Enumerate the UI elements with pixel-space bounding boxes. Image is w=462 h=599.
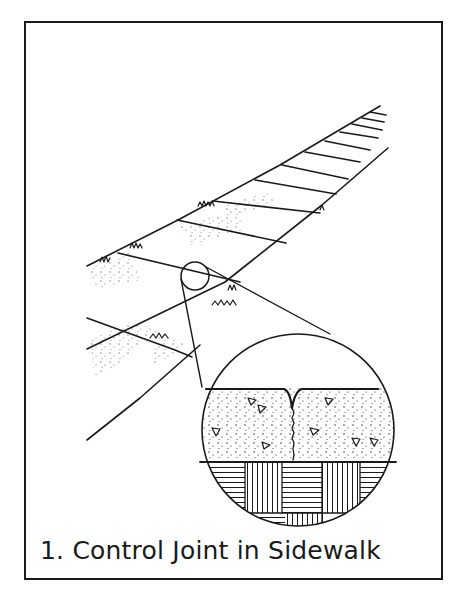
- sidewalk-left-edge: [87, 106, 380, 266]
- callout-circle: [181, 262, 209, 290]
- callout-lines: [181, 267, 330, 387]
- sidewalk-illustration: [0, 0, 462, 599]
- figure-caption: 1. Control Joint in Sidewalk: [40, 536, 381, 565]
- detail-view: [195, 334, 410, 533]
